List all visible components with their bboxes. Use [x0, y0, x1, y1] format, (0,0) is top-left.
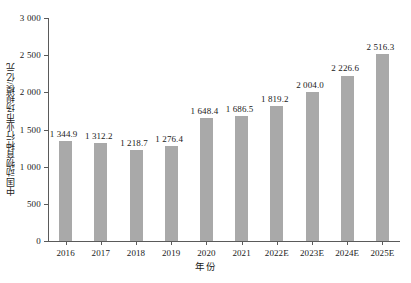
x-axis-tick	[312, 241, 313, 245]
x-axis-tick-label: 2025E	[370, 248, 394, 258]
bar	[165, 146, 178, 241]
y-axis-tick	[44, 130, 48, 131]
bar-value-label: 2 516.3	[367, 42, 395, 52]
x-axis-tick-label: 2024E	[335, 248, 359, 258]
y-axis-tick-label: 500	[27, 199, 41, 209]
x-axis-tick-label: 2020	[197, 248, 215, 258]
bar-value-label: 1 276.4	[155, 134, 183, 144]
bar-value-label: 1 218.7	[120, 138, 148, 148]
bar	[94, 143, 107, 241]
x-axis-tick	[242, 241, 243, 245]
x-axis-tick-label: 2017	[92, 248, 110, 258]
x-axis-tick-label: 2022E	[265, 248, 289, 258]
y-axis-tick	[44, 204, 48, 205]
bar-value-label: 1 312.2	[85, 131, 113, 141]
bar-value-label: 2 004.0	[296, 80, 324, 90]
bar	[341, 76, 354, 242]
x-axis-tick-label: 2018	[127, 248, 145, 258]
x-axis-tick-label: 2021	[232, 248, 250, 258]
y-axis-tick-label: 1 500	[20, 125, 41, 135]
x-axis-tick	[347, 241, 348, 245]
y-axis-tick	[44, 167, 48, 168]
x-axis-title: 年份	[0, 259, 411, 273]
bar	[200, 118, 213, 241]
y-axis-title-text: 中国动物育种行业市场规模/亿元	[3, 63, 16, 196]
y-axis-tick-label: 3 000	[20, 13, 41, 23]
bar-value-label: 1 686.5	[226, 104, 254, 114]
x-axis-tick-label: 2023E	[300, 248, 324, 258]
plot-area: 05001 0001 5002 0002 5003 00020161 344.9…	[48, 18, 400, 242]
bar-value-label: 1 648.4	[191, 106, 219, 116]
y-axis-tick-label: 2 500	[20, 50, 41, 60]
y-axis-tick-label: 1 000	[20, 162, 41, 172]
bar	[59, 141, 72, 241]
x-axis-tick	[382, 241, 383, 245]
x-axis-tick	[171, 241, 172, 245]
bar	[130, 150, 143, 241]
x-axis-tick	[136, 241, 137, 245]
y-axis-tick	[44, 18, 48, 19]
y-axis-tick	[44, 92, 48, 93]
x-axis-tick-label: 2016	[56, 248, 74, 258]
x-axis-tick	[277, 241, 278, 245]
y-axis-title: 中国动物育种行业市场规模/亿元	[2, 18, 16, 242]
x-axis-tick-label: 2019	[162, 248, 180, 258]
bar-value-label: 2 226.6	[331, 63, 359, 73]
bar	[376, 54, 389, 241]
x-axis-tick	[66, 241, 67, 245]
y-axis-tick-label: 0	[36, 236, 41, 246]
bar	[235, 116, 248, 241]
y-axis-tick	[44, 241, 48, 242]
x-axis-tick	[101, 241, 102, 245]
bar	[306, 92, 319, 241]
bar-value-label: 1 344.9	[50, 129, 78, 139]
y-axis-tick-label: 2 000	[20, 87, 41, 97]
x-axis-tick	[206, 241, 207, 245]
y-axis-tick	[44, 55, 48, 56]
bar	[270, 106, 283, 241]
bar-chart: 中国动物育种行业市场规模/亿元 05001 0001 5002 0002 500…	[0, 0, 411, 283]
bar-value-label: 1 819.2	[261, 94, 289, 104]
